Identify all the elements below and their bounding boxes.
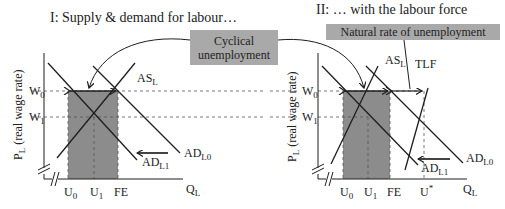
u0-label: U0 [64, 185, 78, 201]
as-label: ASL [137, 71, 158, 87]
cyclical-callout-line2: unemployment [198, 48, 271, 62]
y-axis-label-2: PL (real wage rate) [285, 72, 301, 162]
x-axis-break-icon-2 [318, 172, 333, 186]
ustar-label: U* [420, 183, 434, 199]
cyclical-callout-line1: Cyclical [214, 34, 255, 48]
u1-label-2: U1 [364, 185, 377, 201]
panel-1-title: I: Supply & demand for labour… [50, 10, 237, 25]
u1-label: U1 [90, 185, 103, 201]
x-axis-break-icon [44, 172, 59, 186]
ad-l0-label-2: ADL0 [466, 151, 494, 167]
ad-l0-label: ADL0 [184, 146, 212, 162]
x-axis-label: QL [186, 182, 200, 198]
ad-l1-label: ADL1 [142, 155, 169, 171]
x-axis-label-2: QL [463, 182, 477, 198]
panel-2-title: II: … with the labour force [316, 2, 467, 17]
y-axis-label: PL (real wage rate) [11, 70, 27, 160]
cyclical-callout: Cyclical unemployment [89, 30, 364, 88]
labour-market-diagram: I: Supply & demand for labour… W0 W1 U0 … [0, 0, 505, 209]
w1-label: W1 [29, 110, 45, 126]
tlf-curve [405, 88, 428, 170]
natural-callout-text: Natural rate of unemployment [341, 25, 487, 39]
u0-label-2: U0 [340, 185, 354, 201]
fe-label-2: FE [387, 185, 401, 199]
w0-label: W0 [29, 84, 45, 100]
tlf-label: TLF [415, 57, 437, 71]
cyclical-unemployment-area-2 [343, 91, 390, 179]
natural-rate-callout: Natural rate of unemployment [326, 24, 500, 89]
ad-l1-label-2: ADL1 [421, 161, 448, 177]
fe-label: FE [114, 185, 128, 199]
as-label-2: ASL [385, 53, 406, 69]
w0-label-2: W0 [302, 84, 318, 100]
w1-label-2: W1 [302, 110, 318, 126]
